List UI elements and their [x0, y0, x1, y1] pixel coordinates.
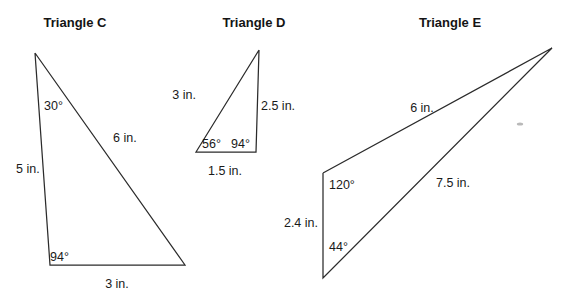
triangle-d-side-base-label: 1.5 in. [208, 164, 242, 178]
triangle-e-side-lower-label: 7.5 in. [436, 176, 470, 190]
triangle-e-side-left-label: 2.4 in. [284, 216, 318, 230]
triangle-d-side-left-label: 3 in. [172, 88, 196, 102]
triangle-e-side-upper-label: 6 in. [410, 101, 434, 115]
triangle-e-angle-bottom-left-label: 44° [329, 240, 348, 254]
figure-canvas: Triangle C5 in.6 in.3 in.30°94°Triangle … [0, 0, 571, 300]
triangle-c-angle-apex-label: 30° [44, 99, 63, 113]
figure-background [0, 0, 571, 300]
triangle-e-angle-top-left-label: 120° [329, 178, 355, 192]
triangle-e-title: Triangle E [419, 15, 481, 30]
triangle-d-angle-bottom-right-label: 94° [231, 137, 250, 151]
triangle-c-side-base-label: 3 in. [105, 277, 129, 291]
scan-speck [517, 122, 523, 125]
triangle-c-side-left-label: 5 in. [16, 162, 40, 176]
triangle-d-side-right-label: 2.5 in. [261, 99, 295, 113]
triangle-c-angle-bottom-left-label: 94° [50, 250, 69, 264]
triangle-c-title: Triangle C [44, 15, 107, 30]
triangle-d-angle-bottom-left-label: 56° [202, 137, 221, 151]
triangle-d-title: Triangle D [223, 15, 286, 30]
triangle-c-side-hyp-label: 6 in. [113, 131, 137, 145]
triangle-figure: Triangle C5 in.6 in.3 in.30°94°Triangle … [0, 0, 571, 300]
